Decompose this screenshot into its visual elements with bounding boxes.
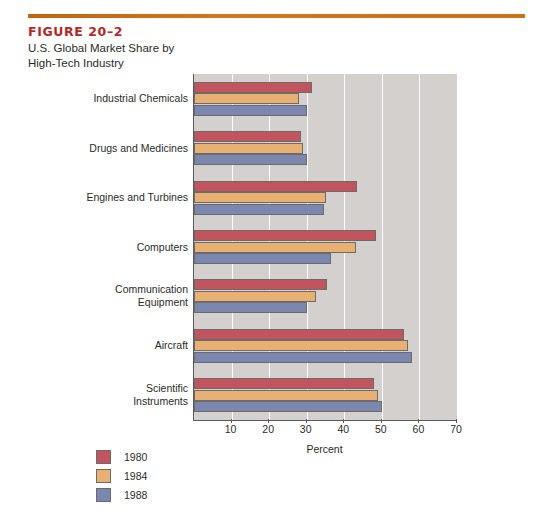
bar-1980 xyxy=(194,181,357,192)
legend-swatch-1984 xyxy=(96,469,111,483)
category-label: Aircraft xyxy=(60,339,188,352)
category-label: CommunicationEquipment xyxy=(60,283,188,309)
bar-group xyxy=(194,279,457,313)
x-tick-label: 70 xyxy=(450,423,462,435)
x-tick-label: 60 xyxy=(413,423,425,435)
bar-1984 xyxy=(194,192,326,203)
x-tick-label: 40 xyxy=(337,423,349,435)
legend-item[interactable]: 1988 xyxy=(96,485,147,504)
bar-1980 xyxy=(194,230,376,241)
chart-legend: 198019841988 xyxy=(96,447,147,504)
x-tick-label: 50 xyxy=(375,423,387,435)
category-axis-labels: Industrial ChemicalsDrugs and MedicinesE… xyxy=(60,74,188,420)
x-tick-label: 20 xyxy=(262,423,274,435)
legend-item[interactable]: 1980 xyxy=(96,447,147,466)
bar-1988 xyxy=(194,352,412,363)
bar-1984 xyxy=(194,143,303,154)
legend-label: 1988 xyxy=(124,489,147,501)
category-label: Computers xyxy=(60,241,188,254)
bar-chart: Industrial ChemicalsDrugs and MedicinesE… xyxy=(0,0,541,515)
bar-1988 xyxy=(194,302,307,313)
legend-swatch-1980 xyxy=(96,450,111,464)
x-axis-ticks: 10203040506070 xyxy=(193,423,456,439)
bar-1988 xyxy=(194,105,307,116)
bar-group xyxy=(194,230,457,264)
legend-label: 1984 xyxy=(124,470,147,482)
plot-area xyxy=(193,74,457,421)
bar-1980 xyxy=(194,82,312,93)
bar-1988 xyxy=(194,401,382,412)
bar-1984 xyxy=(194,242,356,253)
bar-1988 xyxy=(194,154,307,165)
category-label: Industrial Chemicals xyxy=(60,92,188,105)
bar-1980 xyxy=(194,378,374,389)
legend-label: 1980 xyxy=(124,451,147,463)
legend-swatch-1988 xyxy=(96,488,111,502)
legend-item[interactable]: 1984 xyxy=(96,466,147,485)
bar-group xyxy=(194,131,457,165)
x-tick-label: 30 xyxy=(300,423,312,435)
bar-group xyxy=(194,329,457,363)
bar-group xyxy=(194,82,457,116)
bar-1988 xyxy=(194,204,324,215)
bar-1980 xyxy=(194,131,301,142)
category-label: ScientificInstruments xyxy=(60,382,188,408)
x-tick-label: 10 xyxy=(225,423,237,435)
bar-1984 xyxy=(194,93,299,104)
bar-1980 xyxy=(194,279,327,290)
bar-1984 xyxy=(194,390,378,401)
category-label: Engines and Turbines xyxy=(60,191,188,204)
bar-1984 xyxy=(194,340,408,351)
bar-1988 xyxy=(194,253,331,264)
bar-group xyxy=(194,181,457,215)
x-axis-title: Percent xyxy=(193,443,456,455)
bar-1980 xyxy=(194,329,404,340)
bar-1984 xyxy=(194,291,316,302)
category-label: Drugs and Medicines xyxy=(60,142,188,155)
bar-group xyxy=(194,378,457,412)
